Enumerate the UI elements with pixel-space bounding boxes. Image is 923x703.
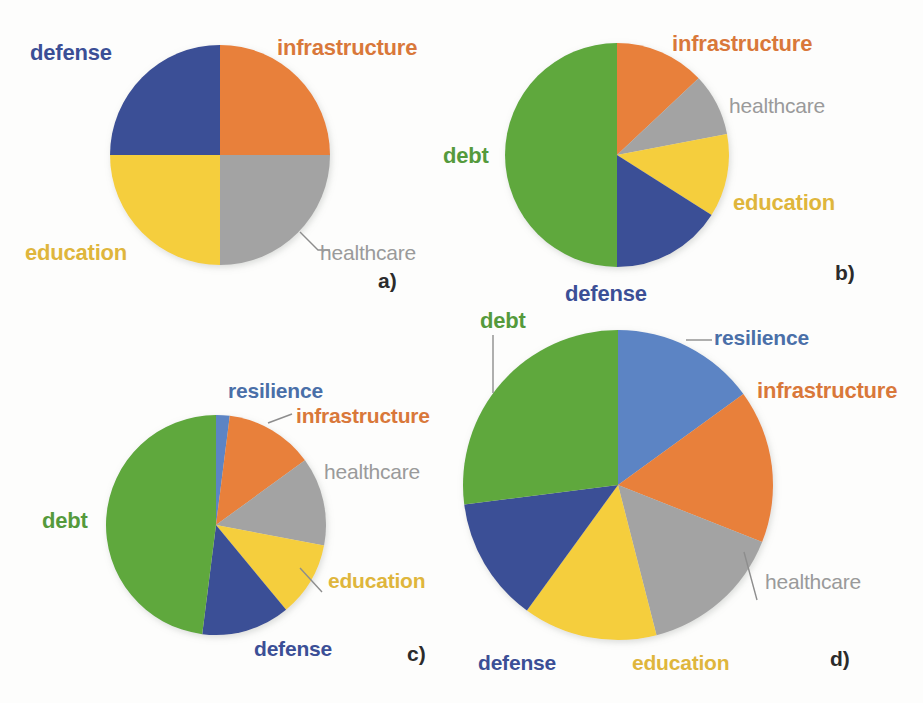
pie-b-label-defense: defense	[565, 283, 647, 305]
pie-a-wedge-infrastructure	[220, 45, 330, 155]
pie-d-label-debt: debt	[480, 310, 526, 332]
pie-d-caption: d)	[830, 648, 850, 669]
pie-d-wedge-defense	[464, 485, 618, 610]
pie-a-label-infrastructure: infrastructure	[277, 37, 417, 59]
pie-c-label-education: education	[328, 570, 425, 591]
pie-c-label-healthcare: healthcare	[324, 461, 420, 482]
pie-a-label-education: education	[25, 242, 127, 264]
pie-a-wedge-healthcare	[220, 155, 330, 265]
pie-d-wedge-resilience	[618, 330, 743, 485]
pie-b-wedge-defense	[617, 155, 712, 267]
pie-c-wedge-healthcare	[216, 460, 326, 545]
pie-a-caption: a)	[378, 270, 397, 291]
pie-b-caption: b)	[835, 262, 855, 283]
pie-c-leader-infrastructure	[268, 414, 292, 423]
pie-c-label-resilience: resilience	[228, 380, 323, 401]
pie-b-wedge-debt	[505, 43, 617, 267]
pie-b-wedge-healthcare	[617, 78, 727, 155]
pie-d-leader-healthcare	[744, 552, 757, 600]
pie-c-label-defense: defense	[254, 638, 332, 659]
pie-d	[463, 330, 773, 640]
pie-d-label-infrastructure: infrastructure	[757, 380, 897, 402]
pie-b-label-infrastructure: infrastructure	[672, 33, 812, 55]
pie-a-label-defense: defense	[30, 42, 112, 64]
pie-b-wedge-infrastructure	[617, 43, 699, 155]
pie-b-label-healthcare: healthcare	[729, 95, 825, 116]
pie-d-label-defense: defense	[478, 652, 556, 673]
pie-c-wedge-defense	[202, 525, 286, 635]
pie-d-label-healthcare: healthcare	[765, 571, 861, 592]
pie-a-wedge-defense	[110, 45, 220, 155]
pie-d-wedge-healthcare	[618, 485, 762, 635]
pie-c-wedge-education	[216, 525, 324, 610]
pie-b	[505, 43, 729, 267]
pie-a	[110, 45, 330, 265]
pie-c-label-debt: debt	[42, 510, 88, 532]
pie-c-caption: c)	[407, 643, 426, 664]
pie-c	[106, 415, 326, 635]
pie-d-label-education: education	[632, 652, 729, 673]
pie-c-wedge-debt	[106, 415, 216, 634]
pie-b-label-debt: debt	[443, 145, 489, 167]
pie-d-wedge-infrastructure	[618, 394, 773, 542]
pie-b-label-education: education	[733, 192, 835, 214]
pie-c-label-infrastructure: infrastructure	[296, 405, 430, 426]
pie-c-wedge-resilience	[216, 415, 230, 525]
figure-canvas: defense infrastructure education healthc…	[0, 0, 923, 703]
pie-d-wedge-debt	[463, 330, 618, 504]
pie-d-label-resilience: resilience	[714, 327, 809, 348]
pie-c-wedge-infrastructure	[216, 416, 305, 525]
pie-d-wedge-education	[527, 485, 657, 640]
pie-b-wedge-education	[617, 134, 729, 215]
pie-a-label-healthcare: healthcare	[320, 242, 416, 263]
pie-c-leader-education	[300, 568, 322, 592]
